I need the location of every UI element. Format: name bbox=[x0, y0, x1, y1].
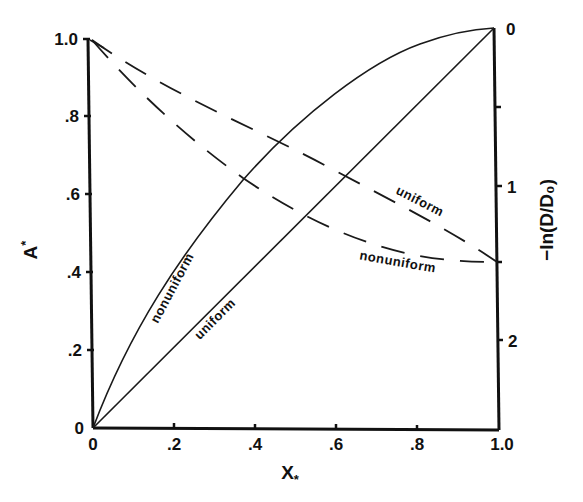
y-tick-label: .6 bbox=[66, 185, 80, 204]
x-tick-label: .2 bbox=[167, 435, 181, 454]
y-tick-label: .4 bbox=[67, 263, 82, 282]
y-tick-label: .8 bbox=[65, 107, 79, 126]
right-y-tick-label: 0 bbox=[506, 20, 515, 39]
left-y-axis-title: A* bbox=[18, 240, 41, 260]
left-y-axis bbox=[88, 39, 93, 428]
y-tick-label: 1.0 bbox=[54, 30, 78, 49]
right-y-ticks: 0 1 2 bbox=[496, 20, 517, 351]
x-axis-title: X* bbox=[281, 462, 300, 487]
right-y-tick-label: 2 bbox=[508, 332, 517, 351]
right-y-tick-label: 1 bbox=[507, 178, 516, 197]
x-axis bbox=[93, 428, 499, 430]
x-tick-label: 0 bbox=[88, 435, 97, 454]
y-tick-label: .2 bbox=[68, 341, 82, 360]
right-y-axis bbox=[494, 28, 499, 430]
label-nonuniform-solid: nonuniform bbox=[147, 250, 196, 325]
y-tick-label: 0 bbox=[75, 419, 84, 438]
chart-area: 1.0 .8 .6 .4 .2 0 0 .2 .4 .6 .8 1.0 0 1 … bbox=[0, 0, 583, 502]
x-tick-label: 1.0 bbox=[490, 435, 514, 454]
svg-text:X*: X* bbox=[281, 462, 300, 487]
label-uniform-solid: uniform bbox=[191, 295, 238, 342]
x-tick-label: .8 bbox=[410, 435, 424, 454]
right-y-axis-title: −ln(D/D₀) bbox=[536, 179, 557, 261]
svg-text:A*: A* bbox=[18, 240, 41, 260]
nonuniform-dashed-curve bbox=[92, 40, 497, 262]
x-tick-label: .6 bbox=[329, 435, 343, 454]
label-uniform-dashed: uniform bbox=[394, 183, 447, 220]
uniform-solid-line bbox=[93, 28, 494, 428]
x-tick-label: .4 bbox=[248, 435, 263, 454]
svg-text:−ln(D/D₀): −ln(D/D₀) bbox=[536, 179, 557, 261]
uniform-dashed-curve bbox=[92, 40, 497, 262]
